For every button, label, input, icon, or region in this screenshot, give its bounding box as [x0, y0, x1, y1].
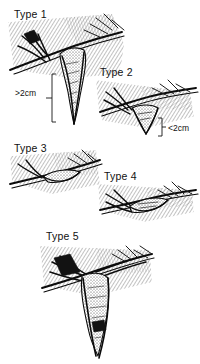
type5-panel-label: Type 5 [46, 230, 79, 242]
type2-panel-label: Type 2 [100, 66, 133, 78]
type3-panel-label: Type 3 [14, 142, 47, 154]
type5-tube-narrowing [92, 320, 106, 332]
type2-measure-label: <2cm [168, 123, 189, 133]
type1-panel-label: Type 1 [14, 8, 47, 20]
type4-panel-label: Type 4 [104, 170, 137, 182]
type1-measure-label: >2cm [15, 88, 36, 98]
figure-root: >2cm Type 1 <2cm T [0, 0, 200, 364]
classification-plate: >2cm Type 1 <2cm T [0, 0, 200, 364]
